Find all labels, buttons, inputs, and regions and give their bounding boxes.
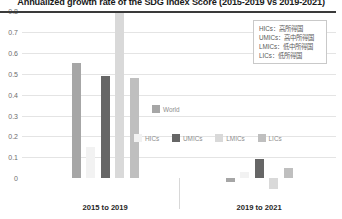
bar-lics-2 (284, 168, 293, 178)
zero-axis-line (0, 11, 336, 13)
x-axis-label-2: 2019 to 2021 (236, 203, 281, 212)
bar-world-2 (226, 178, 235, 182)
y-axis-tick-label: 0.6 (8, 49, 18, 56)
legend-box-translations: HICs：高所得国 UMICs：高中所得国 LMICs：低中所得国 LICs：低… (253, 20, 327, 64)
gridline (22, 95, 336, 96)
legend-inline-row-2: HICs UMICs LMICs LICs (134, 134, 293, 143)
gridline (22, 74, 336, 75)
bar-umics-1 (101, 76, 110, 178)
bar-umics-2 (255, 159, 264, 178)
gridline (22, 116, 336, 117)
legend-swatch-umics (172, 134, 180, 142)
legend-item-lics: LICs (258, 134, 282, 142)
legend-label-hics: HICs (145, 135, 159, 142)
legend-swatch-lmics (215, 134, 223, 142)
bar-hics-2 (240, 172, 249, 178)
bar-lics-1 (130, 78, 139, 178)
group-divider (179, 178, 180, 209)
legend-label-lics: LICs (269, 135, 282, 142)
legend-item-world: World (152, 105, 180, 113)
x-axis-label-1: 2015 to 2019 (83, 203, 128, 212)
legend-item-lmics: LMICs (215, 134, 244, 142)
legend-item-umics: UMICs (172, 134, 203, 142)
legend-label-world: World (163, 106, 180, 113)
legend-box-line-hics: HICs：高所得国 (259, 24, 322, 33)
bar-lmics-1 (115, 13, 124, 178)
gridline (22, 157, 336, 158)
y-axis-tick-label: 0.7 (8, 28, 18, 35)
legend-label-umics: UMICs (183, 135, 203, 142)
bar-world-1 (72, 63, 81, 178)
legend-swatch-world (152, 105, 160, 113)
legend-inline-row-1: World (152, 105, 191, 114)
legend-swatch-lics (258, 134, 266, 142)
y-axis-tick-label: 0.2 (8, 133, 18, 140)
legend-box-line-lics: LICs：低所得国 (259, 51, 322, 60)
legend-box-line-lmics: LMICs：低中所得国 (259, 42, 322, 51)
y-axis-tick-label: 0.5 (8, 70, 18, 77)
legend-item-hics: HICs (134, 134, 159, 142)
y-axis-tick-label: 0 (14, 175, 18, 182)
legend-label-lmics: LMICs (226, 135, 244, 142)
legend-box-line-umics: UMICs：高中所得国 (259, 33, 322, 42)
chart-title: Annualized growth rate of the SDG Index … (0, 0, 342, 7)
bar-chart: Annualized growth rate of the SDG Index … (0, 0, 342, 219)
bar-hics-1 (86, 147, 95, 178)
bar-lmics-2 (269, 178, 278, 188)
y-axis-tick-label: 0.3 (8, 112, 18, 119)
y-axis-tick-label: 0.4 (8, 91, 18, 98)
legend-swatch-hics (134, 134, 142, 142)
y-axis-tick-label: 0.1 (8, 154, 18, 161)
